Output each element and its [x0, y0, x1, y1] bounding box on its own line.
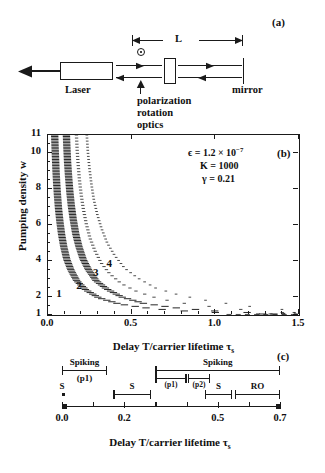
bracket-cap-right: [231, 390, 232, 399]
y-tick-label: 11: [21, 127, 41, 138]
x-tick-mark: [214, 309, 215, 314]
param-K: K = 1000: [200, 160, 238, 171]
bracket-label-top: S: [55, 381, 69, 391]
x-minor-tick: [64, 311, 65, 314]
x-minor-tick: [80, 311, 81, 314]
y-minor-tick: [47, 278, 50, 279]
beam-backward-right-arrow: [198, 74, 208, 82]
bracket-bar: [205, 394, 231, 395]
y-minor-tick: [47, 206, 50, 207]
y-minor-tick: [47, 170, 50, 171]
bracket-bar: [188, 378, 210, 379]
x-minor-tick: [114, 311, 115, 314]
axis-line-c: [62, 406, 280, 407]
cavity-length-label: L: [175, 33, 182, 44]
x-minor-tick: [265, 311, 266, 314]
axis-tick-label-c: 0.7: [265, 412, 295, 423]
bracket-cap-left: [235, 390, 236, 399]
axis-tick-c: [93, 402, 94, 406]
y-tick-mark-right: [293, 152, 298, 153]
curve-band-4: [85, 135, 295, 313]
bracket-bar: [113, 394, 150, 395]
bracket-bar: [155, 378, 186, 379]
l-dim-left-arrow: [132, 36, 144, 45]
y-minor-tick: [47, 251, 50, 252]
x-tick-label: 0.0: [32, 317, 62, 328]
bracket-label-top: Spiking: [62, 357, 107, 367]
y-minor-tick: [47, 305, 50, 306]
axis-tick-label-c: 0.2: [109, 412, 139, 423]
bracket-label-bottom: (p1): [155, 380, 186, 389]
y-minor-tick: [47, 287, 50, 288]
x-minor-tick: [147, 311, 148, 314]
y-tick-mark-right: [293, 296, 298, 297]
axis-tick-c: [218, 402, 219, 408]
bracket-bar: [62, 370, 107, 371]
beam-forward-left-arrow: [134, 62, 144, 70]
curve-label-3: 3: [93, 266, 99, 278]
curve-band-3: [75, 135, 299, 313]
y-tick-mark: [47, 224, 52, 225]
panel-b-tag: (b): [277, 147, 290, 159]
y-tick-label: 2: [21, 289, 41, 300]
bracket-label-top: RO: [235, 381, 280, 391]
bracket-label-top: S: [205, 381, 231, 391]
param-epsilon: ϵ = 1.2 × 10−7: [188, 146, 243, 158]
figure-root: (a) L Laser: [0, 0, 325, 473]
y-tick-mark-right: [293, 188, 298, 189]
y-tick-mark: [47, 260, 52, 261]
x-minor-tick: [248, 311, 249, 314]
curve-label-4: 4: [106, 257, 112, 269]
output-beam-arrowhead: [18, 65, 34, 78]
bracket-bar: [235, 394, 280, 395]
y-tick-label: 6: [21, 217, 41, 228]
y-minor-tick: [47, 143, 50, 144]
x-tick-label: 1.0: [199, 317, 229, 328]
x-tick-label: 0.5: [116, 317, 146, 328]
axis-tick-c: [155, 402, 156, 406]
beam-backward-right: [178, 77, 242, 78]
x-tick-mark: [298, 309, 299, 314]
axis-tick-label-c: 0.5: [203, 412, 233, 423]
curve-label-2: 2: [76, 279, 82, 291]
bracket-cap-right: [150, 390, 151, 399]
curve-band-1: [51, 135, 296, 314]
bracket-cap-right: [279, 390, 280, 399]
y-minor-tick: [47, 161, 50, 162]
x-minor-tick: [164, 311, 165, 314]
panel-b-chart: Pumping density w (b) ϵ = 1.2 × 10−7 K =…: [0, 122, 325, 322]
y-tick-mark: [47, 296, 52, 297]
x-minor-tick: [231, 311, 232, 314]
y-minor-tick: [47, 233, 50, 234]
y-tick-label: 4: [21, 253, 41, 264]
curve-label-1: 1: [56, 287, 62, 299]
axis-end-arrow-left: [62, 404, 67, 409]
curve-band-2: [63, 135, 298, 314]
x-minor-tick: [181, 311, 182, 314]
bracket-point-marker: [62, 393, 65, 396]
laser-box: [60, 62, 113, 80]
bracket-label-top: Spiking: [155, 357, 280, 367]
x-axis-label-c: Delay T/carrier lifetime τs: [40, 436, 300, 451]
y-tick-mark-right: [293, 314, 298, 315]
param-gamma: γ = 0.21: [202, 173, 235, 184]
l-dim-right-arrow: [235, 36, 247, 45]
polarization-label-line2: rotation: [137, 107, 173, 118]
axis-tick-c: [124, 402, 125, 408]
output-beam-line: [30, 70, 60, 72]
y-minor-tick: [47, 197, 50, 198]
panel-c-regions: (c) Spiking(p1)Spiking(p1)(p2)SSSRO 0.00…: [0, 348, 325, 473]
axis-tick-c: [187, 402, 188, 406]
axis-end-arrow-right: [276, 404, 281, 409]
x-minor-tick: [281, 311, 282, 314]
y-minor-tick: [47, 242, 50, 243]
mirror-line: [243, 58, 244, 84]
y-minor-tick: [47, 179, 50, 180]
x-tick-label: 1.5: [283, 317, 313, 328]
panel-a-tag: (a): [272, 16, 285, 28]
axis-tick-c: [249, 402, 250, 406]
bracket-cap-left: [205, 390, 206, 399]
beam-forward-right-arrow: [204, 62, 214, 70]
panel-a-schematic: (a) L Laser: [0, 0, 325, 110]
bracket-cap-right: [279, 366, 280, 375]
